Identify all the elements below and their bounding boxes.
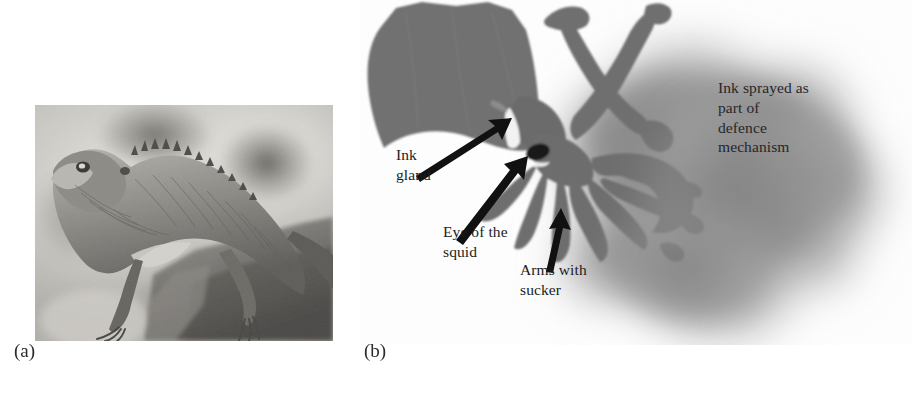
lizard-photograph-svg: [35, 105, 333, 341]
caption-panel-b: (b): [364, 340, 386, 362]
callout-arms-with-sucker-label: Arms with sucker: [520, 260, 630, 300]
lizard-photograph: [35, 105, 333, 341]
photo-grain: [35, 105, 333, 341]
caption-panel-a: (a): [14, 340, 35, 362]
figure-container: Ink gland Eye of the squid Arms with suc…: [0, 0, 912, 399]
callout-ink-sprayed-label: Ink sprayed as part of defence mechanism: [718, 78, 848, 157]
callout-eye-of-the-squid-label: Eye of the squid: [443, 222, 553, 262]
callout-ink-gland-label: Ink gland: [396, 145, 468, 185]
